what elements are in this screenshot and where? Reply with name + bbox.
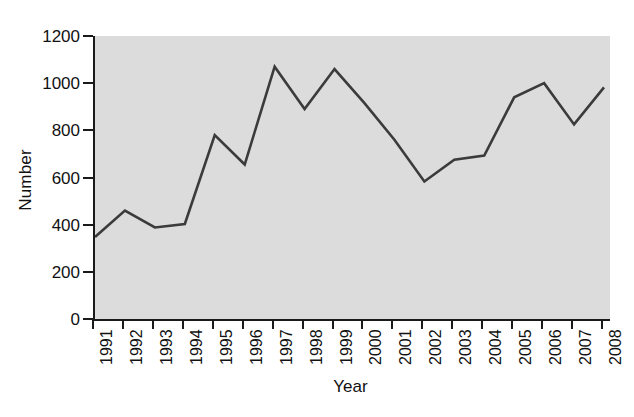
x-tick-mark — [511, 319, 513, 329]
x-tick-mark — [361, 319, 363, 329]
x-tick-label: 1997 — [279, 329, 295, 365]
y-tick-mark — [83, 177, 93, 179]
x-tick-label: 1991 — [99, 329, 115, 365]
x-tick-label: 1995 — [219, 329, 235, 365]
x-tick-mark — [182, 319, 184, 329]
x-tick-mark — [212, 319, 214, 329]
x-tick-label: 2001 — [398, 329, 414, 365]
x-tick-mark — [571, 319, 573, 329]
x-tick-mark — [391, 319, 393, 329]
x-tick-label: 2006 — [548, 329, 564, 365]
x-tick-mark — [242, 319, 244, 329]
x-tick-label: 1998 — [309, 329, 325, 365]
x-tick-label: 1999 — [339, 329, 355, 365]
x-tick-label: 2007 — [578, 329, 594, 365]
plot-area — [93, 36, 610, 321]
x-tick-mark — [481, 319, 483, 329]
x-tick-label: 2005 — [518, 329, 534, 365]
y-tick-mark — [83, 224, 93, 226]
y-tick-mark — [83, 82, 93, 84]
line-chart: Number 020040060080010001200 19911992199… — [0, 0, 634, 417]
x-tick-label: 2008 — [608, 329, 624, 365]
x-tick-label: 2000 — [368, 329, 384, 365]
x-tick-mark — [92, 319, 94, 329]
x-tick-mark — [272, 319, 274, 329]
y-tick-mark — [83, 271, 93, 273]
x-tick-label: 1993 — [159, 329, 175, 365]
y-tick-mark — [83, 129, 93, 131]
y-tick-mark — [83, 35, 93, 37]
x-tick-mark — [122, 319, 124, 329]
x-tick-mark — [332, 319, 334, 329]
x-tick-mark — [152, 319, 154, 329]
x-tick-mark — [421, 319, 423, 329]
x-tick-mark — [302, 319, 304, 329]
x-tick-label: 1994 — [189, 329, 205, 365]
x-tick-label: 2004 — [488, 329, 504, 365]
x-tick-label: 2003 — [458, 329, 474, 365]
x-axis-title: Year — [93, 377, 608, 397]
data-series-line — [95, 67, 604, 237]
x-tick-mark — [601, 319, 603, 329]
x-tick-label: 2002 — [428, 329, 444, 365]
x-tick-label: 1996 — [249, 329, 265, 365]
x-tick-mark — [451, 319, 453, 329]
x-tick-label: 1992 — [129, 329, 145, 365]
data-line-svg — [95, 36, 610, 319]
x-tick-mark — [541, 319, 543, 329]
